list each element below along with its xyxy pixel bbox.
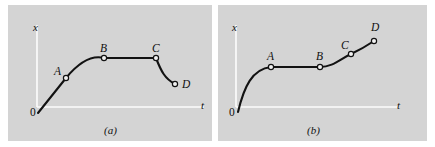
data-point-a-b [268,64,273,69]
origin-label-a: 0 [30,107,36,119]
origin-label-b: 0 [229,107,235,119]
data-point-b-b [317,64,322,69]
point-label-b-a: B [100,43,107,55]
chart-svg-b [218,5,427,141]
chart-panel-b: x t 0 A B C D (b) [218,5,427,141]
figure-root: x t 0 A B C D (a) x t 0 A [0,0,435,147]
point-label-b-b: B [316,51,323,63]
y-axis-label-b: x [232,22,237,33]
point-label-c-b: C [341,40,349,52]
data-point-a-a [63,75,68,80]
x-axis-label-a: t [201,100,204,111]
point-label-c-a: C [152,43,160,55]
curve-segment-c-to-d-a [156,58,175,84]
panel-caption-b: (b) [307,125,320,136]
data-point-d-a [172,81,177,86]
point-label-a-b: A [267,51,274,63]
data-point-d-b [371,38,376,43]
curve-segment-o-to-b-a [38,57,104,113]
data-point-c-b [348,51,353,56]
curve-segment-c-to-d-b [351,41,374,54]
panel-caption-a: (a) [104,125,117,136]
curve-segment-o-to-a-b [238,67,271,112]
point-label-a-a: A [54,66,61,78]
curve-segment-b-to-c-b [320,54,351,67]
point-label-d-b: D [371,22,380,34]
data-point-c-a [153,55,158,60]
chart-panel-a: x t 0 A B C D (a) [8,5,212,141]
x-axis-label-b: t [397,100,400,111]
point-label-d-a: D [182,79,191,91]
y-axis-label-a: x [33,22,38,33]
data-point-b-a [101,55,106,60]
chart-svg-a [8,5,212,141]
